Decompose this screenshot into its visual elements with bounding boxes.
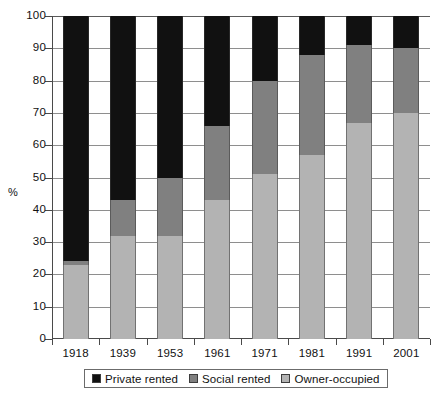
legend-label: Owner-occupied bbox=[294, 373, 379, 385]
y-tick-mark-0 bbox=[45, 339, 52, 340]
x-tick-mark bbox=[99, 339, 100, 345]
stacked-bar-chart: % 0102030405060708090100 191819391953196… bbox=[0, 0, 437, 396]
bar-segment-social-rented-2001 bbox=[393, 48, 419, 113]
y-tick-label: 0 bbox=[14, 333, 46, 345]
y-tick-label: 50 bbox=[14, 172, 46, 184]
cropped-title-remnant bbox=[0, 0, 437, 7]
bar-2001 bbox=[393, 16, 419, 339]
y-tick-mark-70 bbox=[45, 113, 52, 114]
x-tick-mark bbox=[241, 339, 242, 345]
y-tick-label: 40 bbox=[14, 204, 46, 216]
bar-segment-private-rented-2001 bbox=[393, 16, 419, 48]
y-tick-label: 80 bbox=[14, 75, 46, 87]
bar-segment-private-rented-1991 bbox=[346, 16, 372, 45]
x-tick-label-1961: 1961 bbox=[193, 347, 241, 359]
bar-segment-owner-occupied-1981 bbox=[299, 155, 325, 339]
bar-segment-social-rented-1971 bbox=[252, 81, 278, 175]
bar-segment-private-rented-1971 bbox=[252, 16, 278, 81]
y-tick-mark-90 bbox=[45, 48, 52, 49]
x-tick-label-1918: 1918 bbox=[52, 347, 100, 359]
bar-segment-private-rented-1953 bbox=[157, 16, 183, 178]
bar-1961 bbox=[204, 16, 230, 339]
legend-swatch-icon bbox=[92, 374, 101, 383]
y-tick-label: 60 bbox=[14, 139, 46, 151]
y-tick-mark-40 bbox=[45, 210, 52, 211]
x-tick-mark bbox=[147, 339, 148, 345]
bar-segment-social-rented-1991 bbox=[346, 45, 372, 123]
bar-segment-private-rented-1939 bbox=[110, 16, 136, 200]
y-tick-label: 100 bbox=[14, 10, 46, 22]
x-tick-mark bbox=[194, 339, 195, 345]
x-tick-mark bbox=[383, 339, 384, 345]
bar-segment-owner-occupied-1961 bbox=[204, 200, 230, 339]
y-tick-label: 10 bbox=[14, 301, 46, 313]
legend-swatch-icon bbox=[189, 374, 198, 383]
x-tick-mark bbox=[430, 339, 431, 345]
legend-label: Social rented bbox=[202, 373, 270, 385]
legend-label: Private rented bbox=[105, 373, 178, 385]
x-tick-label-2001: 2001 bbox=[382, 347, 430, 359]
bar-segment-owner-occupied-1953 bbox=[157, 236, 183, 339]
bar-segment-owner-occupied-1991 bbox=[346, 123, 372, 339]
bar-1918 bbox=[63, 16, 89, 339]
bar-segment-social-rented-1939 bbox=[110, 200, 136, 236]
x-tick-label-1939: 1939 bbox=[99, 347, 147, 359]
y-tick-mark-30 bbox=[45, 242, 52, 243]
y-tick-label: 20 bbox=[14, 268, 46, 280]
bars-layer bbox=[52, 16, 430, 339]
y-tick-mark-80 bbox=[45, 81, 52, 82]
legend-item: Social rented bbox=[189, 373, 270, 385]
bar-segment-owner-occupied-1971 bbox=[252, 174, 278, 339]
y-tick-mark-10 bbox=[45, 307, 52, 308]
legend-swatch-icon bbox=[281, 374, 290, 383]
x-tick-mark bbox=[336, 339, 337, 345]
x-tick-mark bbox=[52, 339, 53, 345]
y-tick-mark-50 bbox=[45, 178, 52, 179]
bar-1953 bbox=[157, 16, 183, 339]
y-axis-unit-label: % bbox=[8, 186, 18, 198]
x-tick-mark bbox=[288, 339, 289, 345]
bar-segment-owner-occupied-2001 bbox=[393, 113, 419, 339]
y-tick-mark-60 bbox=[45, 145, 52, 146]
bar-segment-owner-occupied-1918 bbox=[63, 265, 89, 339]
bar-segment-private-rented-1981 bbox=[299, 16, 325, 55]
bar-1981 bbox=[299, 16, 325, 339]
y-tick-label: 70 bbox=[14, 107, 46, 119]
y-tick-label: 30 bbox=[14, 236, 46, 248]
legend-item: Owner-occupied bbox=[281, 373, 379, 385]
legend-item: Private rented bbox=[92, 373, 178, 385]
bar-segment-social-rented-1961 bbox=[204, 126, 230, 200]
y-tick-mark-20 bbox=[45, 274, 52, 275]
bar-1991 bbox=[346, 16, 372, 339]
y-tick-mark-100 bbox=[45, 16, 52, 17]
x-tick-label-1981: 1981 bbox=[288, 347, 336, 359]
bar-segment-owner-occupied-1939 bbox=[110, 236, 136, 339]
bar-segment-private-rented-1961 bbox=[204, 16, 230, 126]
y-tick-label: 90 bbox=[14, 42, 46, 54]
x-tick-label-1991: 1991 bbox=[335, 347, 383, 359]
bar-segment-social-rented-1981 bbox=[299, 55, 325, 155]
x-tick-label-1971: 1971 bbox=[241, 347, 289, 359]
chart-legend: Private rentedSocial rentedOwner-occupie… bbox=[84, 369, 388, 388]
bar-segment-social-rented-1918 bbox=[63, 261, 89, 264]
bar-1939 bbox=[110, 16, 136, 339]
bar-segment-private-rented-1918 bbox=[63, 16, 89, 261]
bar-segment-social-rented-1953 bbox=[157, 178, 183, 236]
bar-1971 bbox=[252, 16, 278, 339]
x-tick-label-1953: 1953 bbox=[146, 347, 194, 359]
